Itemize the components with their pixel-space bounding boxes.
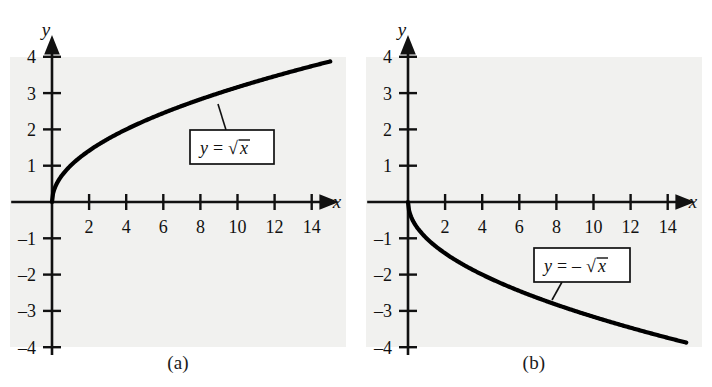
panel-a-caption: (a): [0, 352, 356, 374]
y-tick-label: 4: [27, 47, 36, 67]
y-tick-label: 2: [27, 120, 36, 140]
panel-b-caption: (b): [356, 352, 712, 374]
panel-a: 24681012144321–1–2–3–4xyy=√x (a): [0, 0, 356, 387]
x-tick-label: 14: [659, 217, 677, 237]
equation-lhs: y: [542, 256, 552, 276]
y-tick-label: 4: [383, 47, 392, 67]
x-tick-label: 6: [159, 217, 168, 237]
plot-b: 24681012144321–1–2–3–4xyy=–√x: [356, 0, 712, 355]
x-tick-label: 8: [196, 217, 205, 237]
y-tick-label: –2: [17, 265, 36, 285]
y-tick-label: 2: [383, 120, 392, 140]
x-tick-label: 6: [515, 217, 524, 237]
y-tick-label: 3: [383, 84, 392, 104]
x-tick-label: 10: [229, 217, 247, 237]
x-tick-label: 10: [585, 217, 603, 237]
equation-lhs: y: [198, 138, 208, 158]
x-tick-label: 4: [478, 217, 487, 237]
square-root-function-figure: 24681012144321–1–2–3–4xyy=√x (a) 2468101…: [0, 0, 712, 387]
x-tick-label: 2: [85, 217, 94, 237]
y-axis-label: y: [40, 19, 51, 40]
equation-equals: =: [557, 256, 567, 276]
panel-b: 24681012144321–1–2–3–4xyy=–√x (b): [356, 0, 712, 387]
y-tick-label: 1: [383, 156, 392, 176]
equation-sign: –: [571, 256, 582, 276]
y-tick-label: –2: [373, 265, 392, 285]
y-tick-label: –3: [17, 301, 36, 321]
radical-icon: √: [586, 256, 596, 276]
y-tick-label: –1: [373, 229, 392, 249]
x-tick-label: 12: [266, 217, 284, 237]
y-axis-label: y: [396, 19, 407, 40]
y-tick-label: –1: [17, 229, 36, 249]
equation-equals: =: [213, 138, 223, 158]
x-tick-label: 4: [122, 217, 131, 237]
y-tick-label: –3: [373, 301, 392, 321]
radical-icon: √: [228, 138, 238, 158]
x-axis-label: x: [688, 191, 698, 212]
x-tick-label: 8: [552, 217, 561, 237]
plot-a: 24681012144321–1–2–3–4xyy=√x: [0, 0, 356, 355]
x-axis-label: x: [332, 191, 342, 212]
y-tick-label: 3: [27, 84, 36, 104]
y-tick-label: 1: [27, 156, 36, 176]
x-tick-label: 2: [441, 217, 450, 237]
x-tick-label: 14: [303, 217, 321, 237]
x-tick-label: 12: [622, 217, 640, 237]
